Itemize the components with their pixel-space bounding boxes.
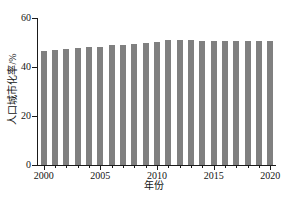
bar	[188, 40, 194, 165]
x-axis-minor-tick	[202, 166, 203, 168]
y-axis-tick-label: 0	[0, 160, 31, 170]
bar	[63, 49, 69, 165]
plot-area	[38, 18, 276, 165]
x-axis-minor-tick	[180, 166, 181, 168]
y-axis-tick	[32, 18, 37, 19]
bar	[109, 45, 115, 165]
bar	[199, 41, 205, 165]
bar	[120, 45, 126, 165]
bar	[256, 41, 262, 165]
x-axis-minor-tick	[191, 166, 192, 168]
x-axis-minor-tick	[89, 166, 90, 168]
x-axis-minor-tick	[123, 166, 124, 168]
x-axis-minor-tick	[225, 166, 226, 168]
x-axis-label: 年份	[0, 181, 294, 191]
x-axis-minor-tick	[236, 166, 237, 168]
x-axis-tick-label: 2020	[260, 171, 280, 181]
bar	[245, 41, 251, 165]
bar	[177, 40, 183, 165]
x-axis-tick-label: 2000	[34, 171, 54, 181]
bar	[131, 44, 137, 165]
x-axis-minor-tick	[55, 166, 56, 168]
chart-figure: 0204060 20002005201020152020 年份 人口城市化率/%	[0, 0, 294, 200]
y-axis-tick	[32, 165, 37, 166]
x-axis-minor-tick	[112, 166, 113, 168]
y-axis-tick	[32, 67, 37, 68]
x-axis-minor-tick	[66, 166, 67, 168]
x-axis-tick-label: 2015	[204, 171, 224, 181]
y-axis-tick-label: 60	[0, 13, 31, 23]
y-axis-tick	[32, 116, 37, 117]
bar	[41, 51, 47, 165]
x-axis-minor-tick	[134, 166, 135, 168]
x-axis-minor-tick	[168, 166, 169, 168]
x-axis-minor-tick	[259, 166, 260, 168]
x-axis-minor-tick	[248, 166, 249, 168]
bar	[222, 41, 228, 165]
x-axis-minor-tick	[78, 166, 79, 168]
bar	[211, 41, 217, 165]
bar	[75, 48, 81, 165]
bar	[97, 47, 103, 165]
bar	[52, 50, 58, 165]
bar	[143, 43, 149, 165]
bar	[86, 47, 92, 165]
y-axis-label: 人口城市化率/%	[8, 29, 18, 149]
x-axis-label-text: 年份	[144, 180, 164, 191]
bar	[154, 42, 160, 165]
bar	[165, 40, 171, 165]
x-axis-minor-tick	[146, 166, 147, 168]
x-axis-tick-label: 2005	[90, 171, 110, 181]
bar	[267, 41, 273, 165]
bar	[233, 41, 239, 165]
